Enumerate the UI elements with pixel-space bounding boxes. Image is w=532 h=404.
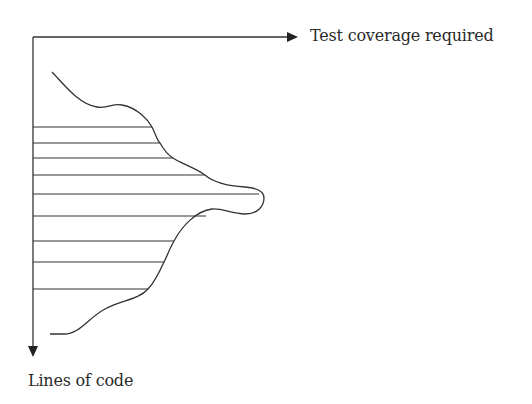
x-axis-arrow-icon — [287, 32, 298, 42]
y-axis-label: Lines of code — [28, 371, 133, 390]
x-axis-label: Test coverage required — [310, 26, 493, 45]
coverage-diagram: Test coverage required Lines of code — [0, 0, 532, 404]
distribution-curve — [50, 72, 264, 334]
coverage-hatch-lines — [33, 127, 259, 289]
diagram-canvas — [0, 0, 532, 404]
y-axis-arrow-icon — [28, 346, 38, 357]
